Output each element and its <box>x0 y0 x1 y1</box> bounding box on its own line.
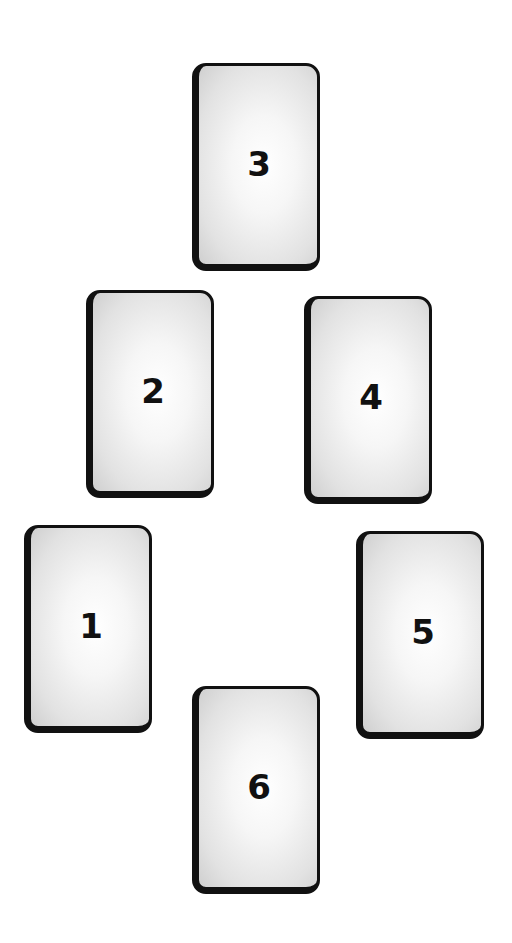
card-position-3: 3 <box>192 63 320 271</box>
card-number: 1 <box>79 609 103 643</box>
card-position-4: 4 <box>304 296 432 504</box>
card-number: 3 <box>247 147 271 181</box>
card-number: 6 <box>247 770 271 804</box>
card-position-1: 1 <box>24 525 152 733</box>
card-position-6: 6 <box>192 686 320 894</box>
card-number: 2 <box>141 374 165 408</box>
card-number: 5 <box>411 615 435 649</box>
card-position-5: 5 <box>356 531 484 739</box>
card-number: 4 <box>359 380 383 414</box>
card-position-2: 2 <box>86 290 214 498</box>
